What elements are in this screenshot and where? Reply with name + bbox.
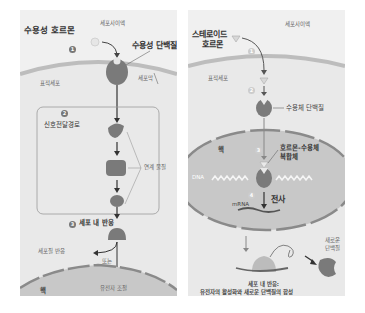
target-cell-label: 표적세포 bbox=[40, 81, 60, 87]
step-3-marker: 3 bbox=[69, 221, 76, 228]
target-cell-label: 표적세포 bbox=[208, 76, 228, 82]
step-1-marker: 1 bbox=[248, 48, 255, 55]
step-2-marker: 2 bbox=[61, 110, 68, 117]
signal-pathway-label: 신호전달경로 bbox=[44, 122, 80, 129]
new-protein-label-line2: 단백질 bbox=[325, 246, 340, 252]
step-4-marker: 4 bbox=[248, 192, 255, 199]
right-diagram-graphic bbox=[188, 10, 345, 296]
water-soluble-hormone-label: 수용성 호르몬 bbox=[24, 26, 75, 35]
steroid-hormone-panel: 스테로이드 호르몬 세포사이액 1 표적세포 2 수용체 단백질 핵 3 호르몬… bbox=[188, 10, 345, 296]
step-3-marker: 3 bbox=[255, 147, 262, 154]
dna-label: DNA bbox=[192, 175, 204, 181]
receptor-protein-label: 수용체 단백질 bbox=[286, 105, 324, 112]
cytoplasmic-response-label: 세포질 반응 bbox=[38, 249, 65, 255]
receptor-protein-label: 수용성 단백질 bbox=[132, 42, 177, 50]
water-soluble-hormone-panel: 수용성 호르몬 세포사이액 1 수용성 단백질 세포막 표적세포 2 신호전달경… bbox=[20, 10, 177, 296]
new-protein-label-line1: 새로운 bbox=[325, 238, 340, 244]
nucleus-label: 핵 bbox=[218, 147, 224, 154]
steroid-hormone-label-line2: 호르몬 bbox=[202, 41, 223, 49]
relay-molecules-label: 연계 물질 bbox=[144, 165, 166, 171]
step-2-marker: 2 bbox=[248, 87, 255, 94]
hormone-receptor-complex-label-line1: 호르몬-수용체 bbox=[280, 145, 319, 152]
hormone-receptor-complex-label-line2: 복합체 bbox=[280, 154, 298, 161]
or-label: 또는 bbox=[102, 259, 112, 265]
cell-membrane-label: 세포막 bbox=[138, 76, 153, 82]
transcription-label: 전사 bbox=[271, 196, 285, 204]
step-1-marker: 1 bbox=[69, 46, 76, 53]
extracellular-fluid-label: 세포사이액 bbox=[285, 22, 310, 28]
cellular-response-description: 유전자의 활성화와 새로운 단백질의 합성 bbox=[200, 290, 293, 296]
extracellular-fluid-label: 세포사이액 bbox=[100, 21, 125, 27]
cellular-response-title: 세포 내 반응: bbox=[248, 282, 279, 288]
cellular-response-label: 세포 내 반응 bbox=[79, 220, 114, 227]
gene-regulation-label: 유전자 조절 bbox=[100, 286, 127, 292]
steroid-hormone-label-line1: 스테로이드 bbox=[192, 31, 227, 39]
nucleus-label: 핵 bbox=[40, 288, 46, 295]
mrna-label: mRNA bbox=[232, 202, 249, 208]
